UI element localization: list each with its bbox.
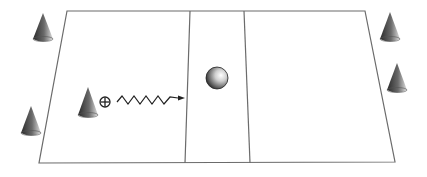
cone-bottom-left [21,106,41,136]
cone-right-middle [387,63,407,93]
player-icon [100,97,110,107]
drill-diagram [0,0,427,177]
ball-icon [206,67,228,89]
cone-top-left [33,13,53,42]
cone-top-right [380,12,400,42]
